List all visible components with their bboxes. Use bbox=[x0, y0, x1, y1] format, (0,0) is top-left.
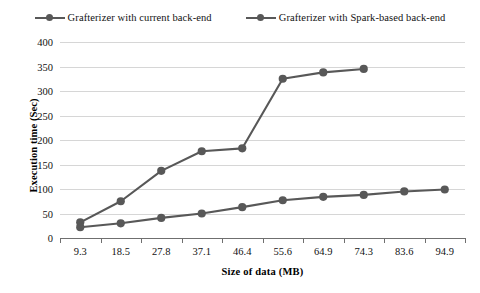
x-axis-tick-mark bbox=[465, 238, 466, 243]
plot-area bbox=[60, 42, 465, 238]
x-axis-tick-mark bbox=[222, 238, 223, 243]
x-axis-tick-label: 46.4 bbox=[233, 246, 251, 257]
x-axis-tick-mark bbox=[263, 238, 264, 243]
line-chart: Grafterizer with current back-end Grafte… bbox=[0, 0, 480, 293]
gridline bbox=[60, 116, 465, 117]
chart-legend: Grafterizer with current back-end Grafte… bbox=[0, 12, 480, 23]
x-axis-tick-label: 74.3 bbox=[355, 246, 373, 257]
legend-item-spark-backend: Grafterizer with Spark-based back-end bbox=[246, 12, 446, 23]
x-axis-tick-mark bbox=[384, 238, 385, 243]
gridline bbox=[60, 42, 465, 43]
x-axis-tick-mark bbox=[303, 238, 304, 243]
gridline bbox=[60, 189, 465, 190]
y-axis-tick-label: 150 bbox=[37, 159, 53, 170]
x-axis-tick-label: 37.1 bbox=[193, 246, 211, 257]
x-axis-tick-label: 9.3 bbox=[74, 246, 87, 257]
x-axis-tick-label: 64.9 bbox=[314, 246, 332, 257]
x-axis-tick-mark bbox=[60, 238, 61, 243]
y-axis-tick-label: 0 bbox=[48, 233, 53, 244]
x-axis-tick-mark bbox=[425, 238, 426, 243]
y-axis-tick-label: 50 bbox=[43, 208, 54, 219]
x-axis-tick-label: 94.9 bbox=[436, 246, 454, 257]
gridline bbox=[60, 214, 465, 215]
gridline bbox=[60, 165, 465, 166]
x-axis-title: Size of data (MB) bbox=[60, 266, 465, 277]
legend-label: Grafterizer with Spark-based back-end bbox=[279, 12, 446, 23]
y-axis-tick-label: 400 bbox=[37, 37, 53, 48]
y-axis-tick-label: 250 bbox=[37, 110, 53, 121]
y-axis: Execution time (Sec) 0501001502002503003… bbox=[0, 0, 60, 293]
x-axis-tick-mark bbox=[182, 238, 183, 243]
y-axis-title: Execution time (Sec) bbox=[28, 51, 39, 241]
y-axis-tick-label: 350 bbox=[37, 61, 53, 72]
x-axis-tick-label: 18.5 bbox=[112, 246, 130, 257]
legend-label: Grafterizer with current back-end bbox=[68, 12, 212, 23]
gridline bbox=[60, 91, 465, 92]
legend-line-marker-icon bbox=[246, 13, 276, 23]
x-axis-tick-label: 27.8 bbox=[152, 246, 170, 257]
legend-item-current-backend: Grafterizer with current back-end bbox=[35, 12, 212, 23]
gridline bbox=[60, 67, 465, 68]
x-axis-tick-mark bbox=[344, 238, 345, 243]
x-axis-tick-mark bbox=[141, 238, 142, 243]
x-axis-tick-label: 55.6 bbox=[274, 246, 292, 257]
gridline bbox=[60, 140, 465, 141]
x-axis-tick-label: 83.6 bbox=[395, 246, 413, 257]
y-axis-tick-label: 300 bbox=[37, 86, 53, 97]
x-axis-tick-mark bbox=[101, 238, 102, 243]
y-axis-tick-label: 200 bbox=[37, 135, 53, 146]
y-axis-tick-label: 100 bbox=[37, 184, 53, 195]
